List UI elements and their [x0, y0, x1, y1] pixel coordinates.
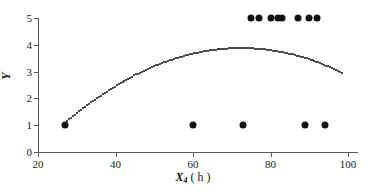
data-point — [306, 15, 313, 22]
fitted-curve-dot — [341, 72, 343, 74]
y-axis-label: Y — [0, 72, 12, 79]
data-point — [267, 15, 274, 22]
data-point — [255, 15, 262, 22]
data-point — [321, 122, 328, 129]
data-point — [240, 122, 247, 129]
chart-figure: Y X4 ( h ) 012345 20406080100 — [0, 0, 373, 194]
y-tick-mark — [34, 98, 39, 99]
data-point — [190, 122, 197, 129]
plot-area: 012345 20406080100 — [38, 18, 348, 152]
y-tick-mark — [34, 125, 39, 126]
x-axis-label-unit: ( h ) — [191, 170, 211, 184]
y-tick-mark — [34, 18, 39, 19]
y-tick-label: 2 — [27, 93, 33, 104]
y-tick-mark — [34, 72, 39, 73]
x-tick-label: 100 — [340, 159, 357, 170]
data-point — [294, 15, 301, 22]
x-tick-label: 40 — [110, 159, 121, 170]
y-tick-label: 0 — [27, 147, 33, 158]
y-tick-label: 1 — [27, 120, 33, 131]
y-tick-label: 5 — [27, 13, 33, 24]
x-tick-mark — [116, 152, 117, 157]
x-tick-mark — [193, 152, 194, 157]
x-axis-label-variable: X — [175, 170, 183, 184]
x-tick-mark — [271, 152, 272, 157]
x-axis-line — [38, 152, 358, 153]
x-tick-label: 80 — [265, 159, 276, 170]
data-point — [302, 122, 309, 129]
x-tick-mark — [348, 152, 349, 157]
x-tick-label: 20 — [33, 159, 44, 170]
x-axis-label-subscript: 4 — [184, 176, 188, 185]
y-tick-mark — [34, 45, 39, 46]
data-point — [314, 15, 321, 22]
y-axis-line — [38, 18, 39, 152]
x-axis-label: X4 ( h ) — [175, 171, 210, 185]
data-point — [279, 15, 286, 22]
data-point — [248, 15, 255, 22]
x-tick-mark — [38, 152, 39, 157]
y-tick-label: 4 — [27, 39, 33, 50]
y-tick-label: 3 — [27, 66, 33, 77]
x-tick-label: 60 — [188, 159, 199, 170]
